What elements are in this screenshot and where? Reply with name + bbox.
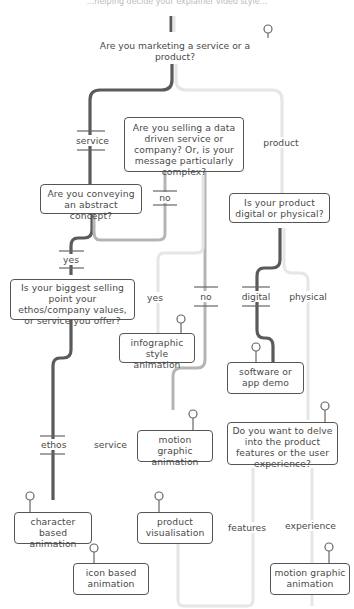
branch-label-yes-infographic: yes <box>144 292 166 303</box>
question-abstract-concept: Are you conveying an abstract concept? <box>40 184 142 214</box>
branch-label-yes: yes <box>60 254 82 265</box>
outcome-product-visualisation: product visualisation <box>137 512 213 544</box>
question-digital-or-physical: Is your product digital or physical? <box>229 193 330 223</box>
question-biggest-selling-point: Is your biggest selling point your ethos… <box>10 279 135 320</box>
outcome-character-based-animation: character based animation <box>14 512 92 544</box>
outcome-infographic-style-animation: infographic style animation <box>119 333 195 363</box>
branch-label-features: features <box>225 522 269 533</box>
branch-label-service: service <box>76 135 106 146</box>
outcome-motion-graphic-animation-1: motion graphic animation <box>137 430 213 462</box>
branch-label-product: product <box>263 137 299 148</box>
outcome-motion-graphic-animation-2: motion graphic animation <box>270 563 350 595</box>
pin-icon <box>264 25 272 33</box>
branch-label-service-icon: service <box>94 439 126 450</box>
branch-label-physical: physical <box>288 291 328 302</box>
outcome-icon-based-animation: icon based animation <box>73 563 149 595</box>
outcome-software-app-demo: software or app demo <box>227 362 304 394</box>
question-data-driven: Are you selling a data driven service or… <box>124 117 244 172</box>
branch-label-no-motion: no <box>196 291 216 302</box>
branch-label-no: no <box>155 192 175 203</box>
branch-label-digital: digital <box>240 291 272 302</box>
branch-label-ethos: ethos <box>41 439 65 450</box>
question-features-or-experience: Do you want to delve into the product fe… <box>227 422 338 465</box>
question-service-or-product: Are you marketing a service or a product… <box>80 38 270 64</box>
branch-label-experience: experience <box>285 520 335 531</box>
